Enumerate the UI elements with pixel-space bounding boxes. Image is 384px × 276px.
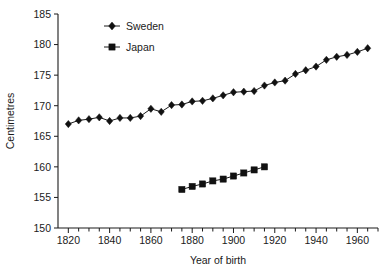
- data-point-marker: [199, 97, 205, 104]
- data-point-marker: [313, 63, 319, 70]
- data-point-marker: [179, 101, 185, 108]
- data-point-marker: [107, 117, 113, 124]
- data-point-marker: [210, 95, 216, 102]
- data-point-marker: [189, 183, 195, 189]
- data-point-marker: [365, 45, 371, 52]
- data-point-marker: [65, 120, 71, 127]
- series-sweden: [65, 45, 371, 128]
- data-point-marker: [127, 114, 133, 121]
- x-tick-label: 1940: [304, 234, 328, 246]
- data-point-marker: [261, 82, 267, 89]
- data-point-marker: [96, 114, 102, 121]
- x-tick-label: 1820: [57, 234, 81, 246]
- data-point-marker: [199, 181, 205, 187]
- x-tick-label: 1960: [346, 234, 370, 246]
- x-tick-label: 1900: [222, 234, 246, 246]
- data-point-marker: [137, 112, 143, 119]
- x-tick-label: 1840: [98, 234, 122, 246]
- data-point-marker: [179, 186, 185, 192]
- x-axis-title: Year of birth: [190, 254, 246, 266]
- data-point-marker: [230, 89, 236, 96]
- data-point-marker: [241, 170, 247, 176]
- data-point-marker: [303, 67, 309, 74]
- data-point-marker: [251, 167, 257, 173]
- x-tick-label: 1920: [263, 234, 287, 246]
- data-point-marker: [76, 117, 82, 124]
- data-point-marker: [220, 176, 226, 182]
- data-point-marker: [210, 178, 216, 184]
- data-point-marker: [272, 79, 278, 86]
- data-point-marker: [117, 114, 123, 121]
- legend-label-japan: Japan: [126, 41, 155, 53]
- data-point-marker: [230, 173, 236, 179]
- y-tick-label: 175: [33, 69, 51, 81]
- x-axis-tick-group: 18201840186018801900192019401960: [57, 228, 378, 246]
- y-tick-label: 185: [33, 8, 51, 20]
- y-tick-label: 155: [33, 191, 51, 203]
- data-point-marker: [241, 88, 247, 95]
- data-point-marker: [334, 53, 340, 60]
- x-tick-label: 1880: [181, 234, 205, 246]
- data-point-marker: [220, 92, 226, 99]
- data-point-marker: [251, 87, 257, 94]
- data-series-group: [65, 45, 371, 193]
- x-tick-label: 1860: [139, 234, 163, 246]
- chart-legend: SwedenJapan: [104, 20, 164, 53]
- data-point-marker: [86, 116, 92, 123]
- data-point-marker: [292, 70, 298, 77]
- y-tick-label: 165: [33, 130, 51, 142]
- data-point-marker: [168, 101, 174, 108]
- data-point-marker: [344, 51, 350, 58]
- data-point-marker: [323, 56, 329, 63]
- y-tick-label: 160: [33, 161, 51, 173]
- data-point-marker: [148, 105, 154, 112]
- data-point-marker: [189, 98, 195, 105]
- legend-label-sweden: Sweden: [126, 20, 164, 32]
- series-line-sweden: [68, 48, 367, 124]
- y-tick-label: 180: [33, 38, 51, 50]
- legend-marker-sweden: [109, 22, 116, 30]
- y-axis-tick-group: 150155160165170175180185: [33, 8, 58, 234]
- series-japan: [179, 164, 268, 193]
- data-point-marker: [354, 48, 360, 55]
- chart-container: 150155160165170175180185 182018401860188…: [0, 0, 384, 276]
- data-point-marker: [282, 77, 288, 84]
- data-point-marker: [158, 108, 164, 115]
- height-by-year-of-birth-line-chart: 150155160165170175180185 182018401860188…: [0, 0, 384, 276]
- y-tick-label: 170: [33, 100, 51, 112]
- legend-marker-japan: [109, 44, 115, 50]
- y-tick-label: 150: [33, 222, 51, 234]
- data-point-marker: [261, 164, 267, 170]
- y-axis-title: Centimetres: [4, 93, 16, 150]
